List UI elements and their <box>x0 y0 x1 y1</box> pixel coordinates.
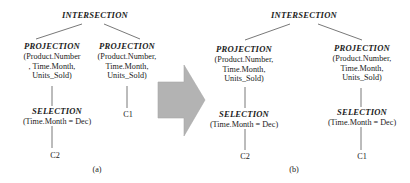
b-left-selection-args: (Time.Month = Dec) <box>210 120 278 130</box>
b-right-arg-1: (Product.Number, <box>333 54 392 64</box>
b-right-selection-label: SELECTION <box>337 108 387 118</box>
caption-a: (a) <box>92 165 101 175</box>
a-left-projection-label: PROJECTION <box>24 42 80 52</box>
a-right-arg-2: Time.Month, <box>98 62 157 72</box>
a-right-arg-1: (Product.Number, <box>98 52 157 62</box>
a-left-projection-args: (Product.Number , Time.Month, Units_Sold… <box>23 52 80 81</box>
b-right-projection-label: PROJECTION <box>334 44 390 54</box>
b-left-arg-3: Units_Sold) <box>215 74 274 84</box>
edge-b-root-right <box>318 24 362 40</box>
b-leaf-c1: C1 <box>357 152 367 162</box>
a-left-selection-args: (Time.Month = Dec) <box>23 117 91 127</box>
b-root-intersection: INTERSECTION <box>271 11 337 21</box>
b-left-projection-args: (Product.Number, Time.Month, Units_Sold) <box>215 55 274 84</box>
b-left-arg-2: Time.Month, <box>215 65 274 75</box>
b-left-selection-label: SELECTION <box>219 110 269 120</box>
a-left-arg-3: Units_Sold) <box>23 71 80 81</box>
tree-edges <box>0 0 410 183</box>
edge-a-root-right <box>104 24 140 39</box>
a-right-projection-args: (Product.Number, Time.Month, Units_Sold) <box>98 52 157 81</box>
b-leaf-c2: C2 <box>240 152 250 162</box>
a-left-arg-1: (Product.Number <box>23 52 80 62</box>
a-left-arg-2: , Time.Month, <box>23 62 80 72</box>
a-right-projection-label: PROJECTION <box>99 42 155 52</box>
edge-b-root-left <box>245 24 290 40</box>
b-right-projection-args: (Product.Number, Time.Month, Units_Sold) <box>333 54 392 83</box>
a-right-arg-3: Units_Sold) <box>98 71 157 81</box>
b-left-projection-label: PROJECTION <box>216 45 272 55</box>
a-left-selection-label: SELECTION <box>32 107 82 117</box>
b-left-arg-1: (Product.Number, <box>215 55 274 65</box>
b-right-arg-3: Units_Sold) <box>333 73 392 83</box>
a-root-intersection: INTERSECTION <box>62 11 128 21</box>
b-right-arg-2: Time.Month, <box>333 64 392 74</box>
right-arrow-icon <box>158 65 205 136</box>
caption-b: (b) <box>289 165 299 175</box>
a-leaf-c2: C2 <box>50 151 60 161</box>
a-leaf-c1: C1 <box>123 110 133 120</box>
edge-a-root-left <box>36 24 82 39</box>
b-right-selection-args: (Time.Month = Dec) <box>328 118 396 128</box>
